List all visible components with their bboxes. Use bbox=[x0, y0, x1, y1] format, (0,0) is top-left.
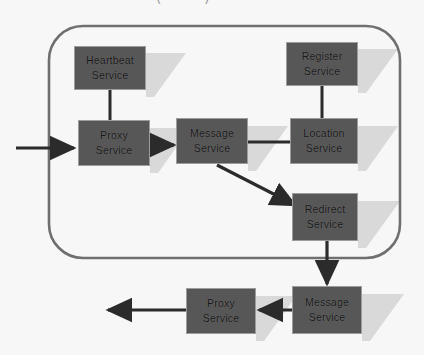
node-label-line1: Location bbox=[303, 126, 344, 141]
node-label-line1: Message bbox=[190, 126, 234, 141]
node-label-line1: Redirect bbox=[305, 202, 346, 217]
node-location-service[interactable]: Location Service bbox=[290, 118, 358, 164]
node-redirect-service[interactable]: Redirect Service bbox=[292, 193, 358, 241]
node-proxy-service-top[interactable]: Proxy Service bbox=[78, 120, 150, 166]
node-message-service-bottom[interactable]: Message Service bbox=[292, 286, 362, 334]
diagram-canvas: —— ———————— (———) bbox=[0, 0, 424, 355]
node-heartbeat-service[interactable]: Heartbeat Service bbox=[74, 46, 146, 90]
node-label-line2: Service bbox=[96, 143, 132, 158]
node-label-line1: Proxy bbox=[207, 296, 235, 311]
node-label-line2: Service bbox=[92, 68, 128, 83]
node-label-line1: Proxy bbox=[100, 128, 128, 143]
node-label-line2: Service bbox=[309, 310, 345, 325]
node-label-line2: Service bbox=[307, 217, 343, 232]
node-label-line1: Heartbeat bbox=[86, 53, 134, 68]
node-proxy-service-bottom[interactable]: Proxy Service bbox=[186, 288, 256, 334]
node-label-line2: Service bbox=[194, 141, 230, 156]
node-label-line2: Service bbox=[304, 64, 340, 79]
node-message-service-top[interactable]: Message Service bbox=[176, 118, 248, 164]
edge-layer bbox=[16, 86, 327, 310]
node-label-line1: Register bbox=[302, 49, 343, 64]
node-label-line2: Service bbox=[306, 141, 342, 156]
node-label-line2: Service bbox=[203, 311, 239, 326]
node-register-service[interactable]: Register Service bbox=[286, 42, 358, 86]
node-label-line1: Message bbox=[305, 295, 349, 310]
